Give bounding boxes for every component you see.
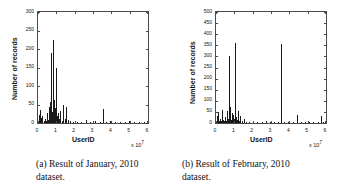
x-tick-label: 3 [265, 127, 275, 133]
caption-a-line1: (a) Result of January, 2010 [36, 159, 139, 169]
x-tick-mark [325, 121, 326, 123]
panel-b-x-multiplier-base: x 10 [309, 142, 319, 148]
x-tick-mark [271, 12, 272, 14]
y-tick-mark [324, 45, 326, 46]
y-tick-mark [216, 112, 218, 113]
histogram-bar [125, 122, 126, 123]
y-tick-mark [146, 68, 148, 69]
y-tick-label: 250 [194, 64, 212, 69]
y-tick-label: 50 [194, 108, 212, 113]
caption-a: (a) Result of January, 2010 dataset. [36, 158, 176, 184]
x-tick-mark [234, 12, 235, 14]
x-tick-mark [38, 12, 39, 14]
y-tick-label: 50 [16, 101, 34, 106]
caption-b: (b) Result of February, 2010 dataset. [182, 158, 322, 184]
y-tick-label: 400 [194, 31, 212, 36]
x-tick-mark [253, 121, 254, 123]
y-tick-mark [146, 49, 148, 50]
y-tick-label: 300 [194, 53, 212, 58]
histogram-bar [244, 119, 245, 123]
x-tick-mark [56, 12, 57, 14]
x-tick-mark [325, 12, 326, 14]
x-tick-mark [308, 121, 309, 123]
y-tick-mark [216, 34, 218, 35]
histogram-bar [56, 68, 57, 124]
x-tick-label: 1 [50, 127, 60, 133]
y-tick-label: 250 [16, 27, 34, 32]
panel-a: Number of records 050100150200250300 012… [0, 0, 175, 156]
x-tick-label: 3 [87, 127, 97, 133]
histogram-bar [68, 120, 69, 123]
panels-row: Number of records 050100150200250300 012… [0, 0, 350, 156]
panel-a-x-multiplier-exp: 7 [141, 140, 144, 145]
y-tick-mark [216, 101, 218, 102]
x-tick-mark [75, 12, 76, 14]
histogram-bar [103, 109, 104, 123]
y-tick-label: 0 [194, 120, 212, 125]
y-tick-mark [146, 105, 148, 106]
x-tick-label: 4 [105, 127, 115, 133]
x-tick-mark [38, 121, 39, 123]
histogram-bar [144, 122, 145, 123]
histogram-bar [301, 122, 302, 123]
histogram-bar [274, 122, 275, 123]
y-tick-mark [324, 23, 326, 24]
panel-b-x-multiplier: x 107 [309, 140, 322, 148]
y-tick-mark [38, 68, 40, 69]
y-tick-mark [146, 31, 148, 32]
x-tick-mark [111, 121, 112, 123]
y-tick-label: 200 [194, 75, 212, 80]
y-tick-mark [38, 86, 40, 87]
x-tick-label: 0 [210, 127, 220, 133]
y-tick-label: 300 [16, 9, 34, 14]
histogram-bar [305, 122, 306, 123]
histogram-bar [262, 122, 263, 123]
x-tick-mark [56, 121, 57, 123]
histogram-bar [115, 122, 116, 123]
y-tick-mark [216, 23, 218, 24]
histogram-bar [249, 122, 250, 123]
y-tick-mark [324, 68, 326, 69]
panel-a-x-multiplier: x 107 [131, 140, 144, 148]
y-tick-mark [38, 105, 40, 106]
y-tick-mark [216, 56, 218, 57]
histogram-bar [86, 120, 87, 123]
y-tick-mark [324, 56, 326, 57]
histogram-bar [81, 122, 82, 123]
histogram-bar [293, 122, 294, 123]
histogram-bar [134, 122, 135, 123]
y-tick-mark [146, 123, 148, 124]
y-tick-label: 200 [16, 46, 34, 51]
y-tick-label: 100 [194, 97, 212, 102]
histogram-bar [235, 43, 236, 123]
y-tick-mark [324, 34, 326, 35]
histogram-bar [100, 122, 101, 123]
histogram-bar [318, 122, 319, 123]
x-tick-label: 0 [32, 127, 42, 133]
y-tick-label: 100 [16, 83, 34, 88]
x-tick-label: 4 [283, 127, 293, 133]
x-tick-label: 2 [247, 127, 257, 133]
x-tick-mark [130, 12, 131, 14]
y-tick-mark [324, 90, 326, 91]
y-tick-label: 0 [16, 120, 34, 125]
panel-a-x-multiplier-base: x 10 [131, 142, 141, 148]
histogram-bar [321, 116, 322, 123]
x-tick-mark [253, 12, 254, 14]
histogram-bar [120, 122, 121, 123]
y-tick-label: 150 [194, 86, 212, 91]
y-tick-mark [216, 45, 218, 46]
x-tick-mark [216, 12, 217, 14]
y-tick-label: 500 [194, 9, 212, 14]
y-tick-mark [38, 49, 40, 50]
x-tick-mark [271, 121, 272, 123]
y-tick-label: 350 [194, 42, 212, 47]
x-tick-label: 2 [69, 127, 79, 133]
captions-row: (a) Result of January, 2010 dataset. (b)… [0, 156, 350, 194]
x-tick-mark [147, 121, 148, 123]
x-tick-mark [111, 12, 112, 14]
x-tick-label: 1 [228, 127, 238, 133]
y-tick-mark [324, 79, 326, 80]
caption-b-line1: (b) Result of February, 2010 [182, 159, 290, 169]
histogram-bar [313, 122, 314, 123]
